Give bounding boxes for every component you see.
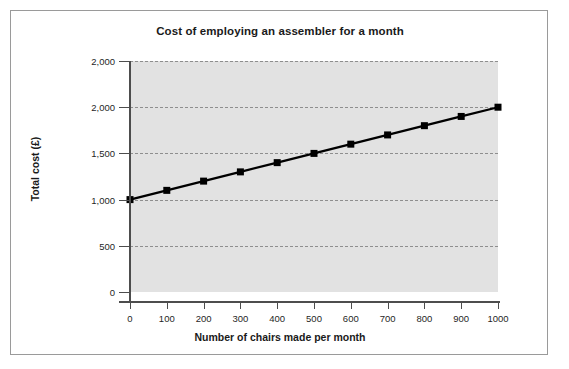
data-point-marker [495, 104, 502, 111]
y-axis-tick-label: 0 [69, 287, 115, 298]
x-axis-tick [240, 301, 241, 309]
y-axis-tick [119, 61, 130, 62]
y-axis-tick-label: 1,000 [69, 194, 115, 205]
y-axis-tick [119, 246, 130, 247]
x-axis-tick [130, 301, 131, 309]
x-axis-tick [498, 301, 499, 309]
data-point-marker [200, 178, 207, 185]
x-axis-tick-label: 1000 [475, 313, 521, 324]
data-point-marker [384, 131, 391, 138]
y-axis-tick [119, 292, 130, 293]
data-point-marker [163, 187, 170, 194]
x-axis-spine [119, 301, 500, 303]
x-axis-tick [424, 301, 425, 309]
x-axis-title: Number of chairs made per month [11, 331, 549, 343]
x-axis-tick [351, 301, 352, 309]
y-axis-tick-label: 2,000 [69, 102, 115, 113]
data-point-marker [274, 159, 281, 166]
series-line-chart [130, 61, 498, 292]
x-axis-tick [461, 301, 462, 309]
data-point-marker [421, 122, 428, 129]
x-axis-tick [314, 301, 315, 309]
y-axis-tick-labels: 05001,0001,5002,0002,000 [59, 11, 115, 356]
figure-frame: Cost of employing an assembler for a mon… [10, 10, 548, 355]
x-axis-tick [204, 301, 205, 309]
x-axis-tick [277, 301, 278, 309]
data-point-marker [237, 168, 244, 175]
y-axis-tick-label: 2,000 [69, 56, 115, 67]
y-axis-tick-label: 500 [69, 240, 115, 251]
x-axis-tick [167, 301, 168, 309]
y-axis-tick-label: 1,500 [69, 148, 115, 159]
y-axis-tick [119, 200, 130, 201]
data-point-marker [458, 113, 465, 120]
series-markers [127, 104, 502, 203]
data-point-marker [347, 141, 354, 148]
y-axis-tick [119, 107, 130, 108]
y-axis-tick [119, 153, 130, 154]
y-axis-spine [129, 61, 131, 302]
y-axis-title: Total cost (£) [29, 89, 41, 249]
x-axis-tick [388, 301, 389, 309]
data-point-marker [311, 150, 318, 157]
